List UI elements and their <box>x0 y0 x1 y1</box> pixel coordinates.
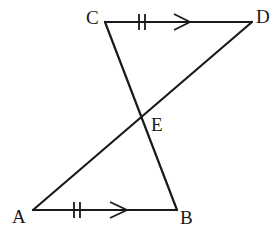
label-a: A <box>12 206 26 227</box>
geometry-diagram: C D E A B <box>0 0 280 232</box>
segment-ad <box>33 22 252 210</box>
label-b: B <box>180 207 193 228</box>
label-d: D <box>256 6 270 27</box>
label-e: E <box>151 114 163 135</box>
label-c: C <box>86 7 99 28</box>
